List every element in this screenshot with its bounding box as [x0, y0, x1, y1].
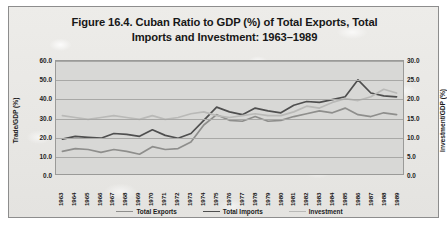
- x-axis-tick: 1979: [264, 193, 271, 206]
- y-axis-left-tick: 40.0: [40, 95, 52, 102]
- chart-title-line-1: Figure 16.4. Cuban Ratio to GDP (%) of T…: [37, 15, 412, 30]
- y-axis-right-tick: 10.0: [407, 133, 419, 140]
- y-axis-right-tick: 30.0: [407, 57, 419, 64]
- legend-swatch: [203, 211, 220, 212]
- legend-swatch: [289, 211, 306, 212]
- gridline: [56, 119, 403, 120]
- gridline: [56, 61, 403, 62]
- x-axis-tick: 1989: [393, 193, 400, 206]
- x-axis-tick: 1978: [251, 193, 258, 206]
- y-axis-left-tick: 0.0: [43, 172, 52, 179]
- x-axis-tick: 1966: [96, 193, 103, 206]
- y-axis-right-ticks: 0.05.010.015.020.025.030.0: [407, 60, 435, 175]
- chart-title: Figure 16.4. Cuban Ratio to GDP (%) of T…: [37, 15, 412, 44]
- legend-swatch: [116, 211, 133, 212]
- plot-area: [55, 60, 404, 175]
- figure-container: Figure 16.4. Cuban Ratio to GDP (%) of T…: [0, 0, 447, 231]
- x-axis-tick: 1986: [354, 193, 361, 206]
- x-axis-tick: 1965: [83, 193, 90, 206]
- y-axis-left-tick: 10.0: [40, 152, 52, 159]
- x-axis-tick: 1971: [160, 193, 167, 206]
- y-axis-right-tick: 15.0: [407, 114, 419, 121]
- x-axis-tick: 1984: [328, 193, 335, 206]
- x-axis-tick: 1982: [302, 193, 309, 206]
- x-axis-ticks: 1963196419651966196719681969197019711972…: [55, 176, 404, 206]
- legend-item[interactable]: Total Imports: [203, 208, 263, 215]
- x-axis-tick: 1977: [238, 193, 245, 206]
- chart-legend: Total ExportsTotal ImportsInvestment: [55, 205, 404, 217]
- x-axis-tick: 1974: [199, 193, 206, 206]
- x-axis-tick: 1963: [57, 193, 64, 206]
- x-axis-tick: 1972: [173, 193, 180, 206]
- y-axis-left-title: Trade/GDP (%): [12, 91, 19, 151]
- x-axis-tick: 1981: [289, 193, 296, 206]
- gridline: [56, 99, 403, 100]
- chart-panel: Figure 16.4. Cuban Ratio to GDP (%) of T…: [8, 6, 439, 218]
- x-axis-tick: 1987: [367, 193, 374, 206]
- legend-label: Total Exports: [136, 208, 176, 215]
- x-axis-tick: 1975: [212, 193, 219, 206]
- y-axis-right-tick: 20.0: [407, 95, 419, 102]
- x-axis-tick: 1976: [225, 193, 232, 206]
- x-axis-tick: 1988: [380, 193, 387, 206]
- y-axis-left-tick: 50.0: [40, 76, 52, 83]
- x-axis-tick: 1970: [147, 193, 154, 206]
- y-axis-right-tick: 0.0: [407, 172, 416, 179]
- x-axis-tick: 1980: [277, 193, 284, 206]
- y-axis-left-tick: 20.0: [40, 133, 52, 140]
- x-axis-tick: 1967: [108, 193, 115, 206]
- x-axis-tick: 1969: [134, 193, 141, 206]
- chart-title-line-2: Imports and Investment: 1963–1989: [37, 30, 412, 45]
- gridline: [56, 157, 403, 158]
- gridline: [56, 138, 403, 139]
- legend-item[interactable]: Investment: [289, 208, 343, 215]
- y-axis-left-tick: 30.0: [40, 114, 52, 121]
- legend-label: Investment: [309, 208, 343, 215]
- x-axis-tick: 1964: [70, 193, 77, 206]
- y-axis-right-tick: 5.0: [407, 152, 416, 159]
- y-axis-right-tick: 25.0: [407, 76, 419, 83]
- x-axis-tick: 1983: [315, 193, 322, 206]
- x-axis-tick: 1985: [341, 193, 348, 206]
- x-axis-tick: 1973: [186, 193, 193, 206]
- legend-item[interactable]: Total Exports: [116, 208, 176, 215]
- y-axis-left-ticks: 0.010.020.030.040.050.060.0: [19, 60, 52, 175]
- gridline: [56, 80, 403, 81]
- y-axis-right-title: Investment/GDP (%): [439, 84, 446, 158]
- y-axis-left-tick: 60.0: [40, 57, 52, 64]
- x-axis-tick: 1968: [121, 193, 128, 206]
- legend-label: Total Imports: [223, 208, 263, 215]
